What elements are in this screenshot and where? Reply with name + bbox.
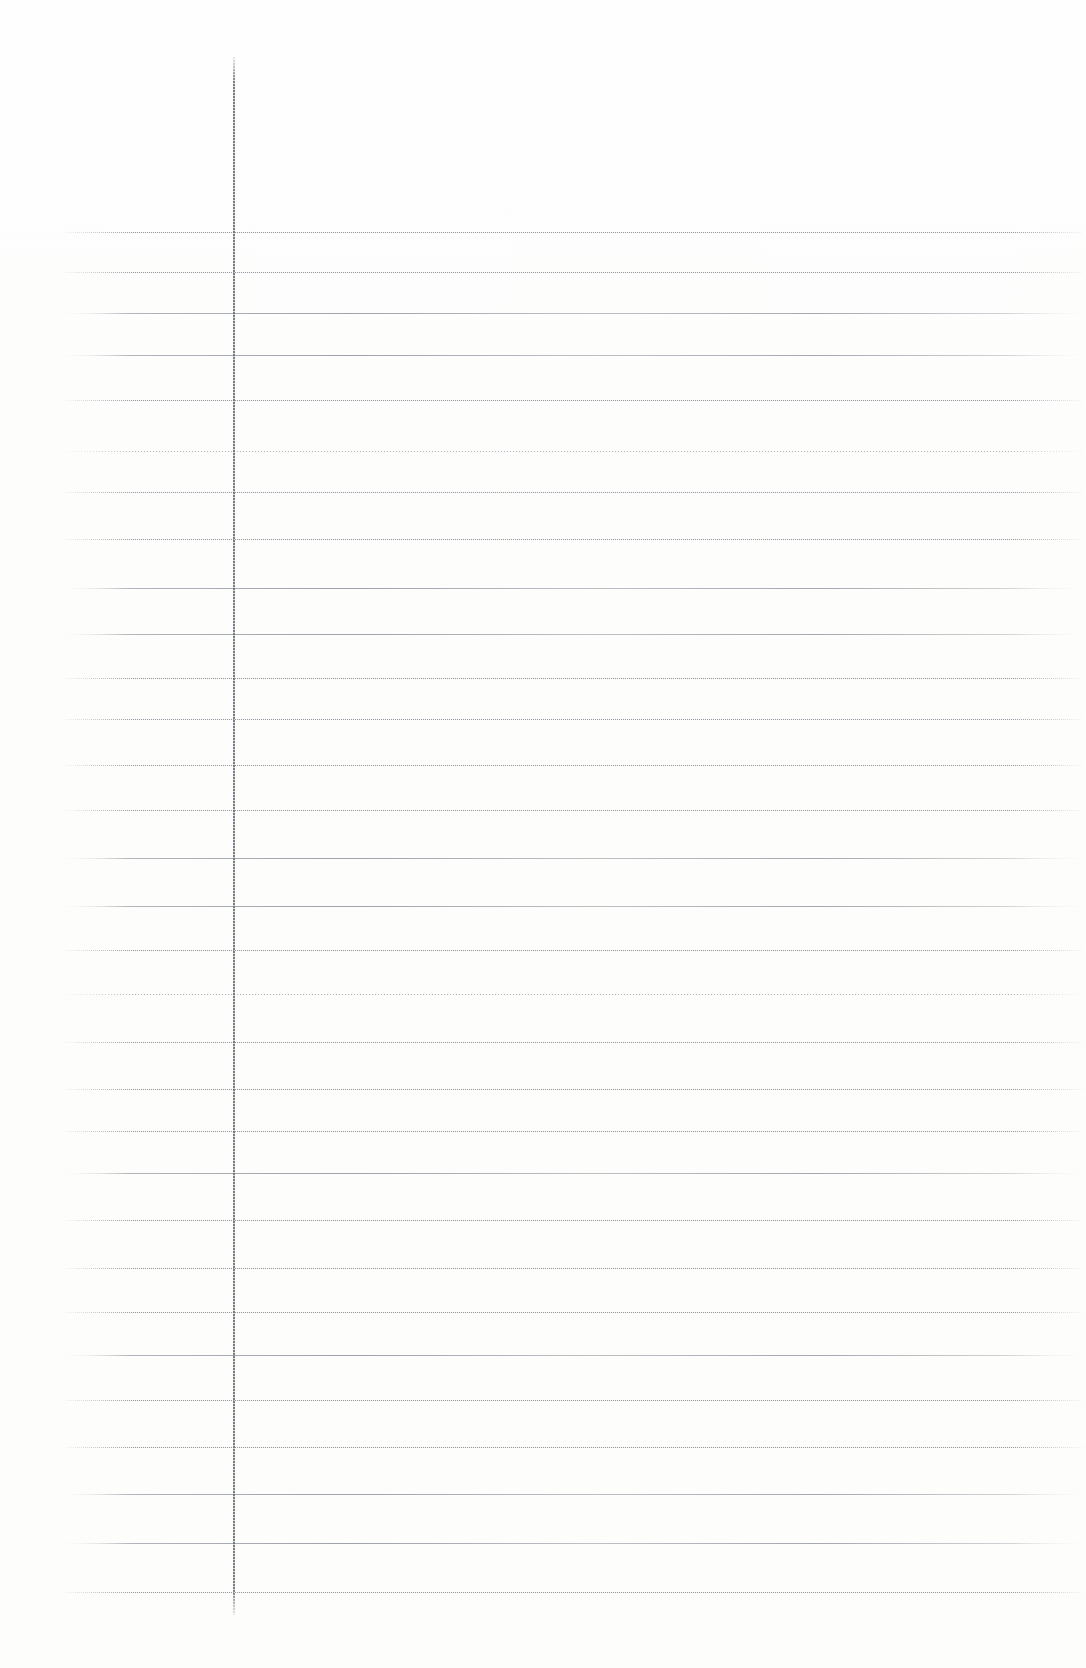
ruled-line-right-fade (1012, 271, 1082, 274)
ruled-line-right-fade (1012, 809, 1082, 812)
ruled-line (63, 950, 1082, 951)
ruled-line-right-fade (1012, 491, 1082, 494)
ruled-line-left-fade (63, 809, 133, 812)
ruled-line-right-fade (1012, 1493, 1082, 1496)
ruled-line (63, 492, 1082, 493)
ruled-line-right-fade (1012, 949, 1082, 952)
ruled-line-right-fade (1012, 1399, 1082, 1402)
ruled-line-left-fade (63, 764, 133, 767)
ruled-line-left-fade (63, 718, 133, 721)
ruled-line-right-fade (1012, 231, 1082, 234)
ruled-line (63, 588, 1082, 589)
ruled-line (63, 719, 1082, 720)
paper-background (0, 0, 1086, 1668)
ruled-line (63, 313, 1082, 314)
ruled-line-left-fade (63, 1172, 133, 1175)
ruled-line-right-fade (1012, 538, 1082, 541)
ruled-line-right-fade (1012, 450, 1082, 453)
ruled-line-right-fade (1012, 1542, 1082, 1545)
scan-noise-overlay (0, 0, 1086, 1668)
ruled-line-left-fade (63, 905, 133, 908)
ruled-line (63, 1042, 1082, 1043)
ruled-line (63, 272, 1082, 273)
ruled-line-right-fade (1012, 587, 1082, 590)
ruled-line-right-fade (1012, 857, 1082, 860)
margin-line-bottom-fade (232, 1589, 236, 1615)
ruled-line-right-fade (1012, 1591, 1082, 1594)
ruled-line-left-fade (63, 1041, 133, 1044)
ruled-line-right-fade (1012, 764, 1082, 767)
ruled-line-left-fade (63, 1399, 133, 1402)
ruled-line-left-fade (63, 1591, 133, 1594)
ruled-line-left-fade (63, 587, 133, 590)
ruled-line-right-fade (1012, 399, 1082, 402)
ruled-line-left-fade (63, 538, 133, 541)
ruled-line-left-fade (63, 231, 133, 234)
ruled-line (63, 1355, 1082, 1356)
ruled-line-left-fade (63, 993, 133, 996)
ruled-line-left-fade (63, 312, 133, 315)
ruled-line-right-fade (1012, 1267, 1082, 1270)
ruled-line-right-fade (1012, 1088, 1082, 1091)
ruled-line-right-fade (1012, 1172, 1082, 1175)
margin-line-top-fade (232, 57, 236, 83)
ruled-line (63, 1592, 1082, 1593)
ruled-line-left-fade (63, 1219, 133, 1222)
ruled-line-left-fade (63, 1493, 133, 1496)
ruled-line (63, 1131, 1082, 1132)
ruled-line (63, 678, 1082, 679)
ruled-line (63, 451, 1082, 452)
ruled-line (63, 858, 1082, 859)
scanned-page (0, 0, 1086, 1668)
ruled-line-right-fade (1012, 1354, 1082, 1357)
ruled-line-right-fade (1012, 633, 1082, 636)
ruled-line-right-fade (1012, 1130, 1082, 1133)
ruled-line (63, 765, 1082, 766)
writing-area (233, 232, 1086, 1615)
ruled-line-right-fade (1012, 677, 1082, 680)
ruled-line-left-fade (63, 1354, 133, 1357)
ruled-line (63, 355, 1082, 356)
ruled-line-left-fade (63, 949, 133, 952)
ruled-line (63, 1312, 1082, 1313)
ruled-line-right-fade (1012, 718, 1082, 721)
ruled-line-left-fade (63, 354, 133, 357)
vertical-margin-line (233, 57, 235, 1615)
ruled-line-left-fade (63, 271, 133, 274)
ruled-line-left-fade (63, 633, 133, 636)
ruled-line-left-fade (63, 450, 133, 453)
ruled-line-right-fade (1012, 905, 1082, 908)
ruled-line-right-fade (1012, 993, 1082, 996)
ruled-line (63, 1494, 1082, 1495)
ruled-line-right-fade (1012, 1041, 1082, 1044)
ruled-line (63, 1400, 1082, 1401)
ruled-line (63, 1089, 1082, 1090)
ruled-line-right-fade (1012, 1219, 1082, 1222)
ruled-line (63, 232, 1082, 233)
ruled-line (63, 1543, 1082, 1544)
ruled-line (63, 1220, 1082, 1221)
ruled-line-left-fade (63, 1542, 133, 1545)
left-margin-column (0, 0, 233, 1668)
ruled-line-left-fade (63, 1446, 133, 1449)
ruled-line (63, 810, 1082, 811)
ruled-line-left-fade (63, 1267, 133, 1270)
ruled-line-left-fade (63, 1311, 133, 1314)
ruled-line (63, 634, 1082, 635)
ruled-line-left-fade (63, 399, 133, 402)
ruled-line-left-fade (63, 491, 133, 494)
ruled-line-right-fade (1012, 1446, 1082, 1449)
ruled-line-left-fade (63, 677, 133, 680)
ruled-line-left-fade (63, 1088, 133, 1091)
ruled-line-right-fade (1012, 312, 1082, 315)
ruled-line-right-fade (1012, 1311, 1082, 1314)
ruled-line (63, 906, 1082, 907)
ruled-line (63, 1173, 1082, 1174)
ruled-line-left-fade (63, 1130, 133, 1133)
ruled-line (63, 539, 1082, 540)
ruled-line (63, 1268, 1082, 1269)
ruled-line (63, 400, 1082, 401)
unruled-header-area (0, 0, 1086, 232)
ruled-line-right-fade (1012, 354, 1082, 357)
ruled-line-left-fade (63, 857, 133, 860)
